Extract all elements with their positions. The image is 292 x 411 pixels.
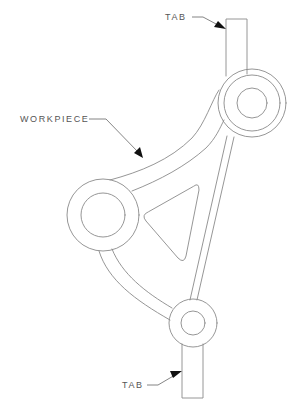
upper-arm-outer-edge bbox=[110, 90, 219, 180]
top-boss-hole bbox=[237, 88, 267, 118]
bottom-boss-outer-ring bbox=[169, 299, 217, 347]
left-boss-outer-ring bbox=[67, 179, 139, 251]
top-boss-outer-ring bbox=[218, 69, 286, 137]
lower-arm-outer-edge bbox=[99, 251, 170, 320]
left-boss-hole bbox=[81, 193, 125, 237]
bottom-boss bbox=[169, 299, 217, 347]
right-strut-right-edge bbox=[197, 137, 234, 300]
workpiece-arrowhead-icon bbox=[134, 147, 143, 158]
bottom-tab-leader-line bbox=[147, 375, 175, 385]
diagram-svg bbox=[0, 0, 292, 411]
top-tab bbox=[226, 19, 247, 76]
workpiece-leader-line bbox=[89, 119, 138, 152]
top-tab-leader-line bbox=[192, 17, 218, 25]
bottom-tab bbox=[182, 344, 203, 398]
right-strut-left-edge bbox=[190, 136, 227, 300]
top-tab-arrowhead-icon bbox=[214, 21, 226, 29]
workpiece-diagram: TAB WORKPIECE TAB bbox=[0, 0, 292, 411]
workpiece-label: WORKPIECE bbox=[20, 114, 89, 124]
top-boss bbox=[218, 69, 286, 137]
upper-arm-inner-edge bbox=[132, 120, 224, 191]
left-boss bbox=[67, 179, 139, 251]
top-tab-label: TAB bbox=[165, 12, 187, 22]
bottom-boss-hole bbox=[181, 311, 205, 335]
bottom-tab-label: TAB bbox=[122, 380, 144, 390]
lower-arm-inner-edge bbox=[112, 249, 172, 308]
top-boss-middle-ring bbox=[224, 75, 280, 131]
triangular-cutout bbox=[144, 185, 199, 261]
